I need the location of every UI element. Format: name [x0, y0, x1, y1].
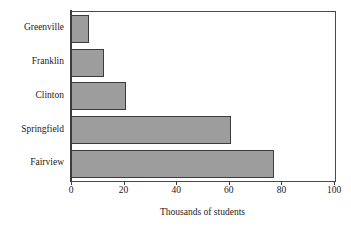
x-axis-tick-label: 40 [171, 186, 181, 196]
x-axis-tick-label: 100 [327, 186, 341, 196]
category-label-springfield: Springfield [0, 112, 68, 146]
bar-series [72, 12, 335, 181]
x-axis-tick-label: 20 [119, 186, 129, 196]
x-axis-tick-label: 0 [69, 186, 74, 196]
bar-row [72, 12, 335, 46]
bar-fairview [71, 150, 274, 178]
category-label-fairview: Fairview [0, 146, 68, 180]
x-axis: 020406080100 [71, 181, 334, 203]
bar-row [72, 147, 335, 181]
category-label-clinton: Clinton [0, 79, 68, 113]
bar-greenville [71, 15, 89, 43]
bar-franklin [71, 49, 104, 77]
bar-chart: Greenville Franklin Clinton Springfield … [0, 0, 351, 231]
plot-area [71, 11, 336, 182]
bar-row [72, 80, 335, 114]
bar-row [72, 113, 335, 147]
y-axis-spine [70, 10, 72, 182]
bar-springfield [71, 116, 231, 144]
category-label-greenville: Greenville [0, 11, 68, 45]
x-axis-tick-label: 60 [224, 186, 234, 196]
category-axis-labels: Greenville Franklin Clinton Springfield … [0, 11, 68, 180]
x-axis-tick-label: 80 [277, 186, 287, 196]
bar-clinton [71, 82, 126, 110]
category-label-franklin: Franklin [0, 45, 68, 79]
bar-row [72, 46, 335, 80]
x-axis-title: Thousands of students [71, 208, 334, 218]
